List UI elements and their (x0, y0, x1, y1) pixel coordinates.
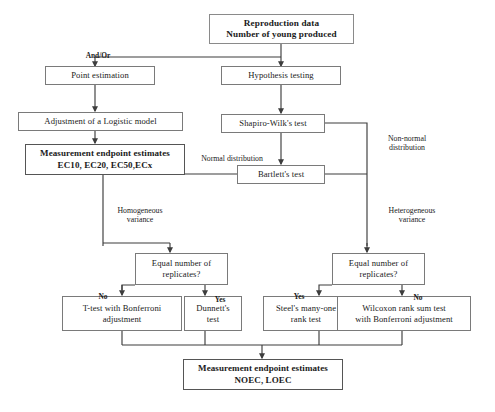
node-reproduction-data-label: Reproduction data Number of young produc… (223, 18, 340, 41)
node-endpoint-estimates-ec-label: Measurement endpoint estimates EC10, EC2… (37, 148, 173, 171)
edge-label-non-normal-distribution: Non-normal distribution (374, 124, 440, 153)
node-logistic-model: Adjustment of a Logistic model (18, 112, 183, 131)
node-dunnett-test-label: Dunnett's test (193, 303, 232, 324)
edge-shapiro-nonnormal (325, 123, 367, 243)
edge-left-no-route (122, 285, 135, 290)
node-shapiro-wilk-label: Shapiro-Wilk's test (236, 118, 309, 129)
node-endpoint-estimates-noec: Measurement endpoint estimates NOEC, LOE… (183, 359, 343, 390)
edge-label-homogeneous-variance: Homogeneous variance (104, 196, 176, 225)
node-endpoint-estimates-noec-label: Measurement endpoint estimates NOEC, LOE… (195, 363, 331, 386)
node-wilcoxon-rank-sum-label: Wilcoxon rank sum test with Bonferroni a… (352, 303, 456, 324)
node-reproduction-data: Reproduction data Number of young produc… (209, 14, 354, 44)
node-point-estimation: Point estimation (45, 66, 155, 85)
node-logistic-model-label: Adjustment of a Logistic model (41, 116, 159, 127)
node-hypothesis-testing: Hypothesis testing (221, 66, 341, 85)
edge-label-no-right: No (407, 284, 429, 303)
node-t-test-bonferroni: T-test with Bonferroni adjustment (62, 296, 182, 331)
edge-label-and-or: And/Or (75, 42, 121, 61)
node-t-test-bonferroni-label: T-test with Bonferroni adjustment (80, 303, 165, 324)
node-equal-replicates-left: Equal number of replicates? (135, 253, 228, 285)
node-equal-replicates-left-label: Equal number of replicates? (149, 258, 214, 279)
node-endpoint-estimates-ec: Measurement endpoint estimates EC10, EC2… (25, 144, 185, 175)
flowchart-diagram: Reproduction data Number of young produc… (0, 0, 495, 412)
node-equal-replicates-right-label: Equal number of replicates? (346, 258, 411, 279)
node-equal-replicates-right: Equal number of replicates? (332, 253, 425, 285)
edge-label-yes-right: Yes (288, 283, 310, 302)
node-wilcoxon-rank-sum: Wilcoxon rank sum test with Bonferroni a… (337, 296, 471, 331)
node-bartlett-test-label: Bartlett's test (255, 169, 307, 180)
edge-label-normal-distribution: Normal distribution (190, 144, 274, 163)
edge-right-yes-route (319, 285, 332, 293)
node-hypothesis-testing-label: Hypothesis testing (245, 70, 317, 81)
node-shapiro-wilk: Shapiro-Wilk's test (221, 114, 325, 133)
node-steel-rank-test-label: Steel's many-one rank test (273, 303, 339, 324)
edge-label-yes-left: Yes (209, 286, 231, 305)
edge-label-no-left: No (92, 283, 114, 302)
node-bartlett-test: Bartlett's test (237, 165, 325, 184)
node-point-estimation-label: Point estimation (68, 70, 132, 81)
edge-label-heterogeneous-variance: Heterogeneous variance (374, 196, 450, 225)
